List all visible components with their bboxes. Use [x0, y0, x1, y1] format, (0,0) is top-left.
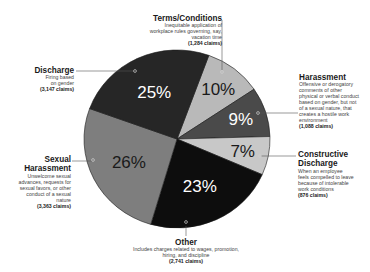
- percent-label: 23%: [183, 177, 217, 196]
- label-desc: Inequitable application of workplace rul…: [140, 23, 222, 41]
- label-claims: (2,741 claims): [126, 259, 246, 265]
- label-desc: Offensive or derogatory comments of othe…: [299, 82, 359, 124]
- label-terms: Terms/Conditions Inequitable application…: [140, 14, 222, 47]
- label-claims: (876 claims): [298, 193, 354, 199]
- label-claims: (1,284 claims): [140, 41, 222, 47]
- percent-label: 10%: [201, 80, 235, 99]
- label-claims: (1,088 claims): [299, 124, 359, 130]
- label-constructive: Constructive Discharge When an employee …: [298, 150, 354, 199]
- label-claims: (3,363 claims): [14, 204, 71, 210]
- label-title: Constructive Discharge: [298, 150, 354, 169]
- label-discharge: Discharge Firing based on gender (3,147 …: [20, 66, 74, 93]
- percent-label: 26%: [112, 153, 146, 172]
- percent-label: 9%: [229, 110, 254, 129]
- label-harassment: Harassment Offensive or derogatory comme…: [299, 73, 359, 130]
- label-desc: When an employee feels compelled to leav…: [298, 169, 354, 193]
- percent-label: 7%: [230, 142, 255, 161]
- label-desc: Unwelcome sexual advances, requests for …: [14, 174, 71, 204]
- label-title: Sexual Harassment: [14, 155, 71, 174]
- pie-slices: [84, 50, 270, 228]
- label-claims: (3,147 claims): [20, 87, 74, 93]
- label-sexual: Sexual Harassment Unwelcome sexual advan…: [14, 155, 71, 210]
- percent-label: 25%: [137, 83, 171, 102]
- label-other: Other Includes charges related to wages,…: [126, 238, 246, 265]
